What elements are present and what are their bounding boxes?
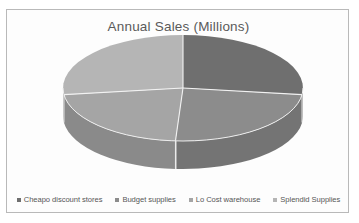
legend-swatch-icon bbox=[189, 198, 193, 202]
legend-item[interactable]: Splendid Supplies bbox=[273, 195, 340, 204]
legend-item-label: Splendid Supplies bbox=[280, 195, 340, 204]
pie-slice[interactable] bbox=[63, 35, 183, 95]
legend-swatch-icon bbox=[273, 198, 277, 202]
page-bottom-margin bbox=[0, 214, 359, 223]
scan-artifact bbox=[0, 0, 359, 8]
legend-item[interactable]: Lo Cost warehouse bbox=[189, 195, 261, 204]
legend-item-label: Cheapo discount stores bbox=[24, 195, 103, 204]
legend-swatch-icon bbox=[115, 198, 119, 202]
legend-item-label: Budget supplies bbox=[122, 195, 175, 204]
legend-swatch-icon bbox=[17, 198, 21, 202]
chart-container: Annual Sales (Millions) Cheapo discount … bbox=[6, 9, 349, 213]
pie-chart-svg bbox=[7, 32, 350, 180]
legend-item[interactable]: Cheapo discount stores bbox=[17, 195, 103, 204]
pie-plot-area bbox=[7, 32, 350, 180]
chart-legend: Cheapo discount stores Budget supplies L… bbox=[7, 195, 350, 204]
legend-item[interactable]: Budget supplies bbox=[115, 195, 175, 204]
pie-slice[interactable] bbox=[183, 35, 303, 95]
legend-item-label: Lo Cost warehouse bbox=[196, 195, 261, 204]
